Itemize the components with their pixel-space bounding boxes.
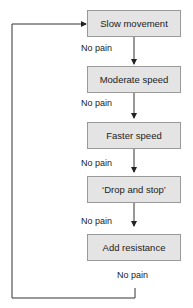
transition-label: No pain bbox=[81, 98, 112, 108]
step-label: Faster speed bbox=[106, 130, 161, 141]
step-label: Slow movement bbox=[100, 18, 168, 29]
transition-label: No pain bbox=[81, 216, 112, 226]
step-label: ‘Drop and stop’ bbox=[102, 184, 166, 195]
step-slow-movement: Slow movement bbox=[87, 10, 181, 37]
step-drop-and-stop: ‘Drop and stop’ bbox=[87, 176, 181, 203]
transition-label: No pain bbox=[117, 270, 148, 280]
step-label: Add resistance bbox=[103, 242, 166, 253]
step-moderate-speed: Moderate speed bbox=[87, 66, 181, 93]
transition-label: No pain bbox=[81, 43, 112, 53]
step-faster-speed: Faster speed bbox=[87, 122, 181, 149]
transition-label: No pain bbox=[81, 158, 112, 168]
step-add-resistance: Add resistance bbox=[87, 234, 181, 261]
step-label: Moderate speed bbox=[100, 74, 169, 85]
